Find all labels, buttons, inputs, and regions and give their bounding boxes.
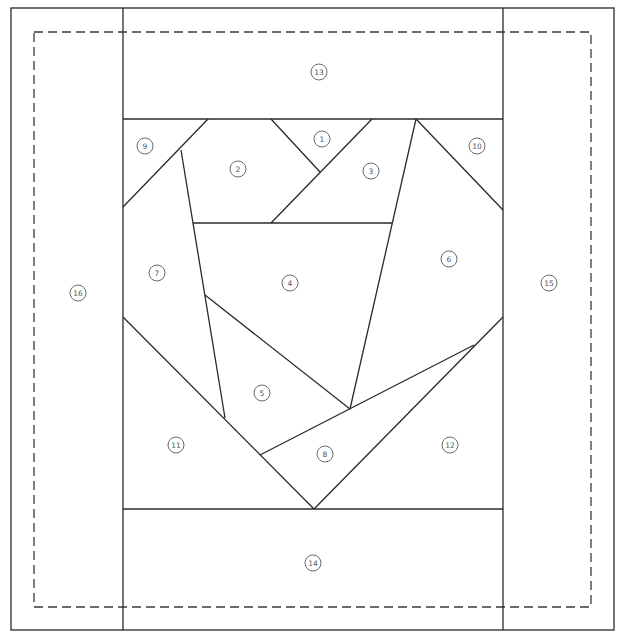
piece-number: 4	[288, 279, 293, 288]
seam-line	[350, 119, 416, 409]
piece-number: 5	[260, 389, 265, 398]
piece-label-14: 14	[305, 555, 321, 571]
piece-label-10: 10	[469, 138, 485, 154]
piece-label-3: 3	[363, 163, 379, 179]
piece-number: 10	[472, 142, 482, 151]
seam-allowance-dashed-line	[34, 32, 591, 607]
seam-line	[260, 345, 474, 455]
piece-number: 1	[320, 135, 325, 144]
piece-label-1: 1	[314, 131, 330, 147]
piece-number: 7	[155, 269, 160, 278]
pattern-diagram: 12345678910111213141516	[0, 0, 627, 641]
piece-label-9: 9	[137, 138, 153, 154]
outer-border	[11, 8, 614, 630]
piece-label-4: 4	[282, 275, 298, 291]
piecing-lines	[123, 8, 503, 630]
piece-number: 9	[143, 142, 148, 151]
seam-line	[205, 295, 350, 409]
piece-number: 12	[445, 441, 455, 450]
piece-label-13: 13	[311, 64, 327, 80]
seam-line	[123, 119, 208, 207]
piece-label-11: 11	[168, 437, 184, 453]
piece-label-8: 8	[317, 446, 333, 462]
piece-label-2: 2	[230, 161, 246, 177]
seam-line	[416, 119, 503, 210]
piece-label-6: 6	[441, 251, 457, 267]
piece-number: 13	[314, 68, 324, 77]
piece-label-5: 5	[254, 385, 270, 401]
piece-label-15: 15	[541, 275, 557, 291]
seam-line	[123, 317, 314, 509]
piece-label-12: 12	[442, 437, 458, 453]
piece-number: 2	[236, 165, 241, 174]
piece-number: 16	[73, 289, 83, 298]
piece-labels: 12345678910111213141516	[70, 64, 557, 571]
piece-number: 3	[369, 167, 374, 176]
seam-line	[181, 150, 225, 418]
piece-label-7: 7	[149, 265, 165, 281]
piece-number: 8	[323, 450, 328, 459]
piece-number: 14	[308, 559, 318, 568]
piece-number: 6	[447, 255, 452, 264]
piece-number: 15	[544, 279, 554, 288]
seam-line	[271, 119, 320, 172]
piece-number: 11	[171, 441, 181, 450]
piece-label-16: 16	[70, 285, 86, 301]
